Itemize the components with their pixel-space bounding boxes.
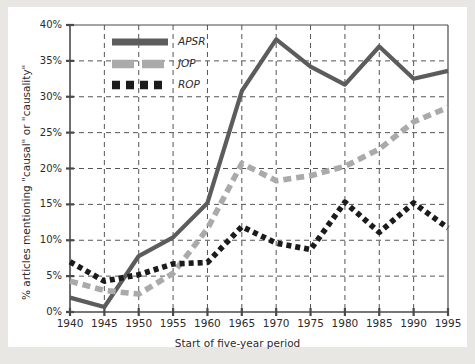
y-tick-label: 0% — [22, 306, 62, 317]
x-tick-label: 1995 — [426, 317, 470, 329]
legend-label-apsr: APSR — [178, 35, 205, 47]
legend-label-rop: ROP — [178, 78, 200, 90]
y-tick-label: 40% — [22, 19, 62, 30]
figure-frame: 0%5%10%15%20%25%30%35%40% 19401945195019… — [0, 0, 475, 364]
line-chart — [0, 0, 475, 364]
y-axis-title: % articles mentioning "causal" or "causa… — [20, 65, 32, 300]
legend-label-jop: JOP — [178, 57, 196, 69]
x-axis-title: Start of five-year period — [0, 337, 475, 349]
